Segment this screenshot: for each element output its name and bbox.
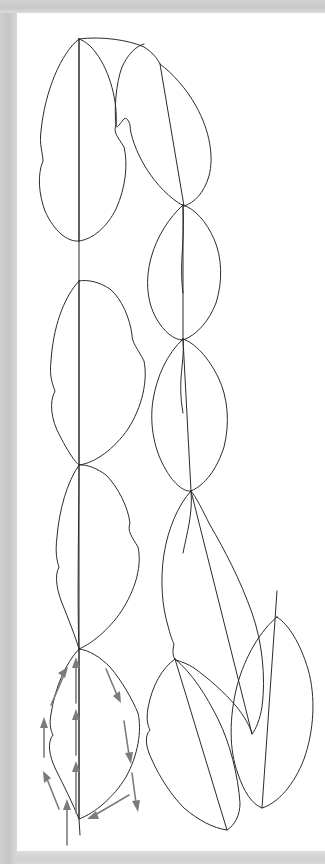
arrow-left-mid [40,717,48,757]
figure-root [0,0,325,864]
leaf-1-left-outline [39,39,126,241]
drawing-sheet [17,13,325,851]
arrow-left-upper [51,667,68,705]
arrow-base-stem [63,799,71,845]
leaf-5-right-midrib [183,339,191,491]
leaf-10-lower-right-outline [146,659,240,830]
leaf-diagram-svg [17,13,325,851]
leaf-7-right-midrib [191,491,252,734]
arrow-right-lower [132,773,140,812]
leaf-2-right-outline [79,38,211,206]
leaf-8-far-right-outline [231,617,313,808]
arrow-right-mid [124,721,133,764]
leaf-6-left-outline [56,465,139,649]
right-branch-stem [181,205,192,553]
leaf-3-right-outline [148,205,221,340]
arrow-right-upper [106,669,121,703]
leaf-2-right-midrib [160,64,184,206]
arrow-left-lower [43,771,59,809]
leaf-7-right-outline [162,491,264,734]
top-margin [0,0,325,13]
left-margin [0,0,17,864]
leaf-2-right-sinus [115,44,144,125]
arrow-base-inflow [87,795,129,819]
leaf-4-left-outline [50,280,145,465]
airflow-arrow-group [40,657,140,845]
leaf-10-lower-right-midrib [175,659,227,830]
bottom-margin [17,851,325,864]
